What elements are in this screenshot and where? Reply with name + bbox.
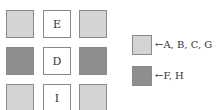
cell-label: E xyxy=(53,18,61,31)
legend-label-light: ←A, B, C, G xyxy=(155,39,212,50)
legend-label-dark: ←F, H xyxy=(155,70,184,81)
cell-label: D xyxy=(53,55,62,68)
cell-r2-c3 xyxy=(79,47,107,75)
cell-r3-c2: I xyxy=(43,84,71,110)
cell-r1-c3 xyxy=(79,10,107,38)
cell-r1-c2: E xyxy=(43,10,71,38)
cell-r2-c1 xyxy=(6,47,34,75)
legend-swatch-dark xyxy=(132,66,152,86)
cell-r3-c1 xyxy=(6,84,34,110)
cell-r2-c2: D xyxy=(43,47,71,75)
cell-r1-c1 xyxy=(6,10,34,38)
legend-swatch-light xyxy=(132,35,152,55)
cell-label: I xyxy=(55,92,59,105)
cell-r3-c3 xyxy=(79,84,107,110)
